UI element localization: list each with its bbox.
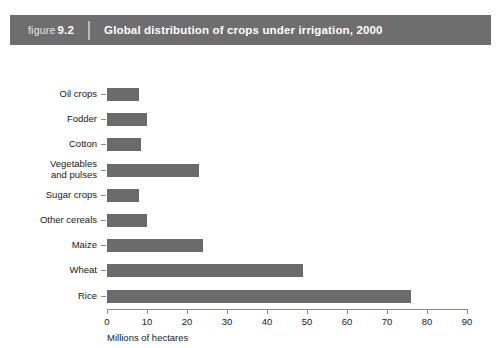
header-divider xyxy=(88,21,90,40)
bar-row: Sugar crops xyxy=(107,183,467,208)
x-axis-tick xyxy=(267,309,268,314)
category-tick xyxy=(101,170,106,171)
x-axis-tick-label: 50 xyxy=(295,316,319,327)
bar xyxy=(107,88,139,101)
x-axis-tick xyxy=(227,309,228,314)
category-label: Oil crops xyxy=(0,88,97,99)
x-axis-tick xyxy=(147,309,148,314)
bar-row: Rice xyxy=(107,284,467,309)
category-tick xyxy=(101,220,106,221)
category-tick xyxy=(101,195,106,196)
plot-area: Oil cropsFodderCottonVegetables and puls… xyxy=(107,82,467,309)
bar xyxy=(107,189,139,202)
category-tick xyxy=(101,119,106,120)
bar-row: Vegetables and pulses xyxy=(107,158,467,183)
figure-label: figure xyxy=(28,24,55,36)
x-axis-tick xyxy=(107,309,108,314)
x-axis-tick xyxy=(187,309,188,314)
figure-header-band: figure9.2 Global distribution of crops u… xyxy=(10,15,491,45)
x-axis-tick-label: 10 xyxy=(135,316,159,327)
bar-row: Wheat xyxy=(107,258,467,283)
x-axis-tick-label: 0 xyxy=(95,316,119,327)
bar xyxy=(107,264,303,277)
x-axis-tick xyxy=(387,309,388,314)
bar xyxy=(107,214,147,227)
x-axis-tick-label: 60 xyxy=(335,316,359,327)
x-axis-line xyxy=(107,309,468,310)
bar xyxy=(107,138,141,151)
bar xyxy=(107,290,411,303)
figure-frame: figure9.2 Global distribution of crops u… xyxy=(0,0,501,348)
category-label: Maize xyxy=(0,239,97,250)
x-axis-tick xyxy=(307,309,308,314)
category-label: Rice xyxy=(0,290,97,301)
bar xyxy=(107,113,147,126)
category-label: Wheat xyxy=(0,264,97,275)
bar-row: Cotton xyxy=(107,132,467,157)
x-axis-tick-label: 40 xyxy=(255,316,279,327)
x-axis-title: Millions of hectares xyxy=(107,332,188,343)
x-axis-tick xyxy=(347,309,348,314)
bar-row: Oil crops xyxy=(107,82,467,107)
category-tick xyxy=(101,270,106,271)
chart-area: Oil cropsFodderCottonVegetables and puls… xyxy=(0,58,501,348)
bar xyxy=(107,239,203,252)
category-tick xyxy=(101,245,106,246)
x-axis-tick xyxy=(427,309,428,314)
category-label: Other cereals xyxy=(0,214,97,225)
x-axis-tick xyxy=(467,309,468,314)
bar-row: Maize xyxy=(107,233,467,258)
x-axis-tick-label: 80 xyxy=(415,316,439,327)
category-label: Cotton xyxy=(0,138,97,149)
x-axis-tick-label: 70 xyxy=(375,316,399,327)
category-label: Vegetables and pulses xyxy=(0,158,97,180)
bar-row: Fodder xyxy=(107,107,467,132)
category-label: Fodder xyxy=(0,113,97,124)
x-axis-tick-label: 20 xyxy=(175,316,199,327)
figure-number: figure9.2 xyxy=(10,24,74,36)
bar xyxy=(107,164,199,177)
category-tick xyxy=(101,296,106,297)
figure-title: Global distribution of crops under irrig… xyxy=(104,24,383,36)
bar-row: Other cereals xyxy=(107,208,467,233)
category-tick xyxy=(101,94,106,95)
x-axis-tick-label: 90 xyxy=(455,316,479,327)
category-tick xyxy=(101,144,106,145)
figure-number-value: 9.2 xyxy=(57,24,74,36)
x-axis-tick-label: 30 xyxy=(215,316,239,327)
category-label: Sugar crops xyxy=(0,189,97,200)
